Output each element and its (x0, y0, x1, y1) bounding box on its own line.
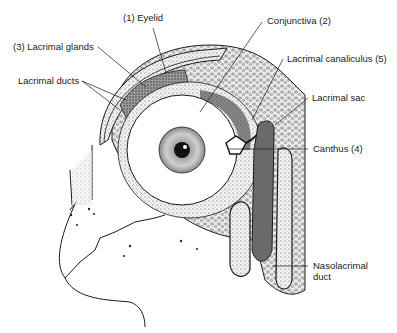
lacrimal-sac (252, 121, 274, 261)
nasolacrimal-duct (276, 148, 292, 289)
label-nasolacrimal-line2: duct (313, 271, 368, 282)
pupil (174, 142, 190, 158)
nasal-cavity-left (230, 202, 250, 277)
pupil-highlight (183, 145, 187, 149)
label-canthus: Canthus (4) (313, 143, 363, 154)
label-conjunctiva: Conjunctiva (2) (267, 15, 331, 26)
cheek-shading (72, 150, 92, 205)
label-lacrimal-glands: (3) Lacrimal glands (13, 41, 94, 52)
lacrimal-apparatus-diagram: (1) Eyelid (3) Lacrimal glands Lacrimal … (0, 0, 397, 333)
label-eyelid: (1) Eyelid (123, 12, 163, 23)
label-nasolacrimal-duct: Nasolacrimal duct (313, 260, 368, 282)
label-lacrimal-sac: Lacrimal sac (312, 92, 365, 103)
label-nasolacrimal-line1: Nasolacrimal (313, 260, 368, 271)
label-lacrimal-canaliculus: Lacrimal canaliculus (5) (287, 53, 387, 64)
label-lacrimal-ducts: Lacrimal ducts (18, 75, 79, 86)
